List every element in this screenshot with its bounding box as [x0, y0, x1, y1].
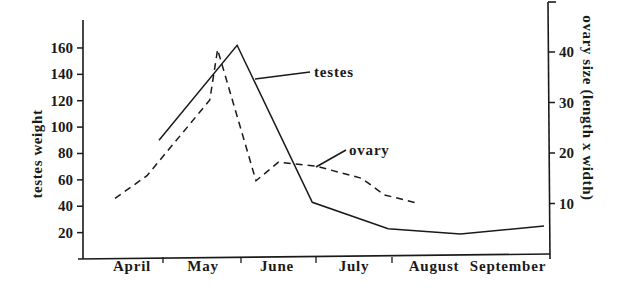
left-axis-tick-label: 140 [51, 66, 74, 82]
right-axis-tick-label: 20 [559, 145, 574, 161]
right-axis-tick-label: 10 [559, 196, 574, 212]
right-axis-tick-label: 40 [559, 44, 574, 60]
x-axis-month-label: September [470, 258, 546, 274]
right-axis-title: ovary size (length x width) [579, 15, 596, 200]
left-axis-tick-label: 160 [51, 40, 74, 56]
left-axis-tick-label: 80 [58, 145, 73, 161]
left-axis-tick-label: 20 [58, 225, 73, 241]
left-axis-tick-label: 60 [58, 172, 73, 188]
left-axis-title: testes weight [29, 109, 45, 198]
left-axis-tick-label: 120 [51, 93, 74, 109]
right-axis-ticks: 10203040 [549, 44, 574, 212]
testes-label: testes [314, 64, 354, 80]
axes [78, 2, 556, 259]
x-axis-month-label: August [409, 258, 460, 274]
chart: 20406080100120140160 10203040 testes wei… [0, 0, 625, 295]
x-axis-labels: AprilMayJuneJulyAugustSeptember [113, 258, 546, 274]
ovary-leader-line [316, 150, 346, 167]
x-axis-month-label: May [187, 258, 219, 274]
right-axis-tick-label: 30 [559, 95, 574, 111]
ovary-series-line [115, 50, 415, 203]
ovary-label: ovary [349, 142, 390, 158]
right-axis-line [548, 2, 550, 259]
left-axis-tick-label: 40 [58, 198, 73, 214]
left-axis-tick-label: 100 [51, 119, 74, 135]
left-axis-ticks: 20406080100120140160 [51, 40, 84, 241]
x-axis-month-label: June [260, 258, 294, 274]
x-axis-month-label: April [113, 258, 151, 274]
x-axis-month-label: July [339, 258, 370, 274]
testes-leader-line [255, 72, 310, 79]
